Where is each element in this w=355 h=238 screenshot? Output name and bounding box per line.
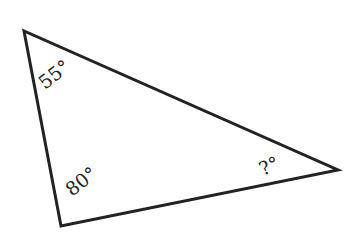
triangle-diagram: 55° 80° ?° — [0, 0, 355, 238]
angle-label-top-left: 55° — [34, 55, 74, 93]
angle-label-right: ?° — [255, 151, 282, 179]
angle-label-bottom-left: 80° — [61, 162, 101, 200]
